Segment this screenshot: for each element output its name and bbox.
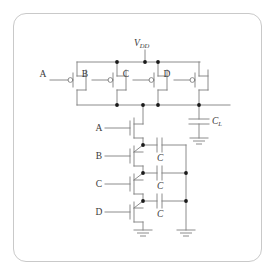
vdd-label: VDD bbox=[134, 38, 150, 49]
pmos-transistor-d bbox=[174, 62, 208, 105]
circuit-schematic: VDD A B C D CL A B C D C C C bbox=[0, 0, 275, 279]
internal-capacitor-label-2: C bbox=[157, 181, 164, 191]
node-dot bbox=[141, 199, 145, 203]
nmos-gate-label-d: D bbox=[96, 207, 103, 217]
nmos-transistor-a bbox=[105, 118, 143, 145]
nmos-gate-label-a: A bbox=[96, 123, 103, 133]
pmos-transistor-a bbox=[50, 62, 86, 105]
node-dot bbox=[115, 103, 119, 107]
load-capacitor bbox=[189, 105, 209, 138]
pmos-gate-label-d: D bbox=[164, 69, 171, 79]
schematic-labels: VDD A B C D CL A B C D C C C bbox=[40, 38, 223, 219]
pmos-gate-label-a: A bbox=[40, 69, 47, 79]
node-dot bbox=[184, 199, 188, 203]
figure-frame: VDD A B C D CL A B C D C C C bbox=[0, 0, 275, 279]
pmos-transistor-c bbox=[133, 62, 167, 105]
ground-load-icon bbox=[190, 138, 208, 144]
nmos-gate-label-c: C bbox=[96, 179, 102, 189]
internal-capacitor-3 bbox=[143, 194, 186, 208]
nmos-transistor-b bbox=[105, 145, 143, 173]
internal-capacitor-label-3: C bbox=[157, 209, 164, 219]
node-dot bbox=[156, 60, 160, 64]
nmos-transistor-d bbox=[105, 201, 143, 230]
pmos-transistor-b bbox=[92, 62, 126, 105]
ground-nmos-stack-icon bbox=[134, 230, 152, 236]
node-dot bbox=[184, 171, 188, 175]
nmos-gate-label-b: B bbox=[96, 151, 102, 161]
internal-capacitor-2 bbox=[143, 166, 186, 180]
node-dot bbox=[115, 60, 119, 64]
internal-capacitor-1 bbox=[143, 138, 186, 152]
node-dot bbox=[141, 103, 145, 107]
node-dot bbox=[156, 103, 160, 107]
pmos-gate-label-b: B bbox=[82, 69, 88, 79]
pmos-gate-label-c: C bbox=[123, 69, 129, 79]
node-dot bbox=[141, 143, 145, 147]
load-capacitor-label: CL bbox=[212, 116, 222, 127]
nmos-transistor-c bbox=[105, 173, 143, 201]
node-dot bbox=[143, 60, 147, 64]
ground-cap-rail-icon bbox=[177, 230, 195, 236]
node-dot bbox=[141, 171, 145, 175]
internal-capacitor-label-1: C bbox=[157, 153, 164, 163]
node-dot bbox=[197, 103, 201, 107]
